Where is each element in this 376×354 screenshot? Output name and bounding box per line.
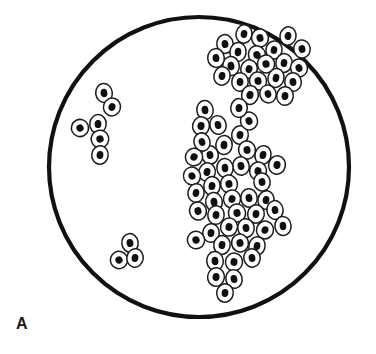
panel-label: A xyxy=(16,316,28,332)
cell xyxy=(230,98,248,118)
micrograph-canvas xyxy=(0,0,376,354)
cell xyxy=(207,48,225,68)
micrograph-figure: A xyxy=(0,0,376,354)
